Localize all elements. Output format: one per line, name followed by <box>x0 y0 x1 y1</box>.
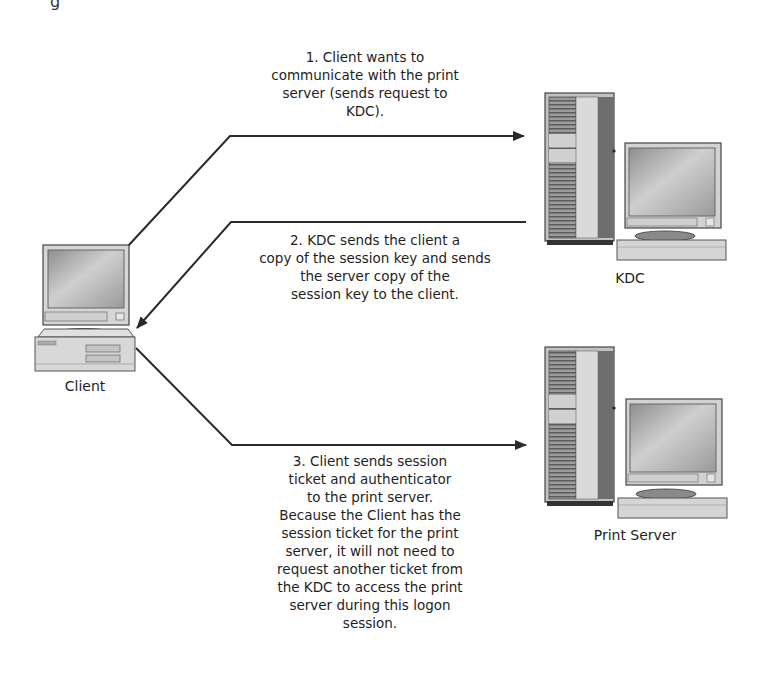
step-1-description: 1. Client wants to communicate with the … <box>250 48 480 120</box>
client-computer-icon <box>35 245 135 371</box>
step-2-description: 2. KDC sends the client a copy of the se… <box>240 231 510 303</box>
kdc-server-icon <box>545 93 726 260</box>
client-label: Client <box>40 378 130 394</box>
arrow-step-3 <box>136 348 526 445</box>
print-server-label: Print Server <box>580 527 690 543</box>
kerberos-diagram: g <box>0 0 762 676</box>
step-3-description: 3. Client sends session ticket and authe… <box>250 452 490 632</box>
print-server-icon <box>545 347 727 518</box>
kdc-label: KDC <box>590 270 670 286</box>
arrow-step-1 <box>128 136 524 246</box>
